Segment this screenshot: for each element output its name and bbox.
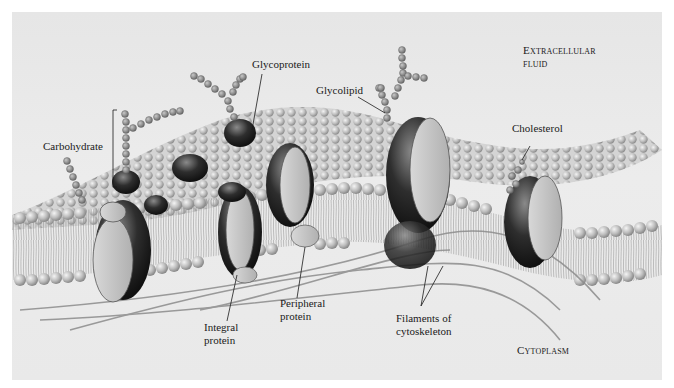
extracellular-fluid-label-line1: Extracellular <box>523 44 596 56</box>
integral-protein-1 <box>93 200 151 302</box>
glycolipid-label: Glycolipid <box>316 84 363 96</box>
peripheral-protein-label-line2: protein <box>280 310 311 322</box>
filaments-label-line2: cytoskeleton <box>396 325 452 337</box>
integral-protein-3 <box>266 143 314 227</box>
peripheral-protein-label-line1: Peripheral <box>280 297 325 309</box>
diagram-panel <box>12 12 662 380</box>
membrane-illustration <box>12 12 662 380</box>
integral-protein-label-line1: Integral <box>204 321 238 333</box>
filaments-label-line1: Filaments of <box>396 312 451 324</box>
peripheral-protein <box>291 225 319 247</box>
carbohydrate-label: Carbohydrate <box>43 140 103 152</box>
integral-protein-label-line2: protein <box>204 334 235 346</box>
glycoprotein-label: Glycoprotein <box>252 58 310 70</box>
extracellular-fluid-label-line2: fluid <box>523 57 548 69</box>
cholesterol-label: Cholesterol <box>512 122 563 134</box>
cytoplasm-label: Cytoplasm <box>517 344 569 356</box>
